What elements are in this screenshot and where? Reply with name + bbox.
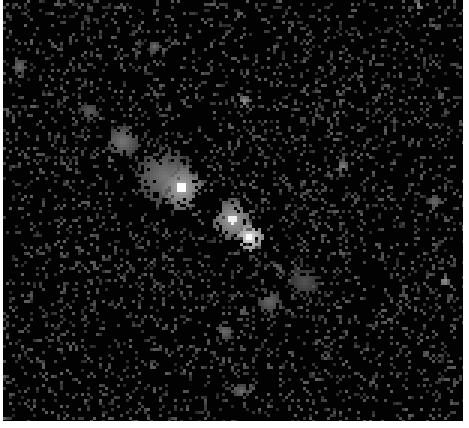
grayscale-image: [3, 0, 463, 421]
noise-canvas: [3, 0, 463, 421]
